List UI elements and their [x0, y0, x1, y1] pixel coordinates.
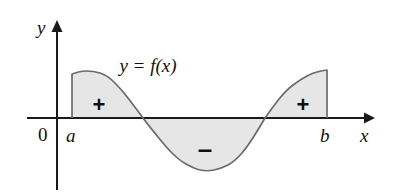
function-label: y = f(x): [117, 55, 176, 77]
y-axis-label: y: [35, 17, 46, 38]
signed-area-diagram: y = f(x) y x 0 a b + – +: [0, 0, 394, 194]
upper-bound-label: b: [320, 125, 330, 146]
origin-label: 0: [38, 124, 48, 145]
x-axis-arrow-icon: [364, 113, 375, 124]
negative-sign: –: [198, 134, 212, 164]
x-axis-label: x: [359, 125, 369, 146]
y-axis-group: [52, 20, 63, 190]
y-axis-arrow-icon: [52, 20, 63, 32]
figure-container: y = f(x) y x 0 a b + – +: [0, 0, 394, 194]
left-positive-region: [72, 71, 143, 118]
lower-bound-label: a: [66, 125, 76, 146]
positive-sign-right: +: [297, 92, 310, 117]
positive-sign-left: +: [93, 92, 106, 117]
